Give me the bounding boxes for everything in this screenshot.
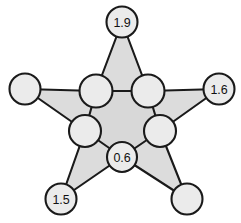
graph-node-inner-bottom[interactable]: 0.6 bbox=[107, 142, 137, 172]
node-circle-inner-left[interactable] bbox=[69, 115, 101, 147]
graph-node-outer-right[interactable]: 1.6 bbox=[204, 74, 235, 105]
graph-node-outer-bottom-left[interactable]: 1.5 bbox=[46, 184, 77, 215]
graph-node-outer-top[interactable]: 1.9 bbox=[107, 7, 138, 38]
graph-node-inner-right[interactable] bbox=[144, 115, 176, 147]
node-label-outer-right: 1.6 bbox=[211, 83, 228, 97]
node-circle-inner-top-left[interactable] bbox=[80, 75, 113, 108]
node-circle-outer-left[interactable] bbox=[10, 74, 41, 105]
graph-node-inner-left[interactable] bbox=[69, 115, 101, 147]
star-graph-figure: 1.91.61.50.6 bbox=[0, 0, 241, 223]
node-circle-inner-top-right[interactable] bbox=[132, 75, 165, 108]
graph-node-outer-left[interactable] bbox=[10, 74, 41, 105]
node-circle-inner-right[interactable] bbox=[144, 115, 176, 147]
node-circle-outer-bottom-right[interactable] bbox=[172, 184, 203, 215]
node-label-outer-top: 1.9 bbox=[114, 16, 131, 30]
node-label-outer-bottom-left: 1.5 bbox=[53, 193, 70, 207]
graph-node-inner-top-left[interactable] bbox=[80, 75, 113, 108]
star-graph-canvas: 1.91.61.50.6 bbox=[0, 0, 241, 223]
node-label-inner-bottom: 0.6 bbox=[114, 151, 131, 165]
graph-node-outer-bottom-right[interactable] bbox=[172, 184, 203, 215]
graph-node-inner-top-right[interactable] bbox=[132, 75, 165, 108]
